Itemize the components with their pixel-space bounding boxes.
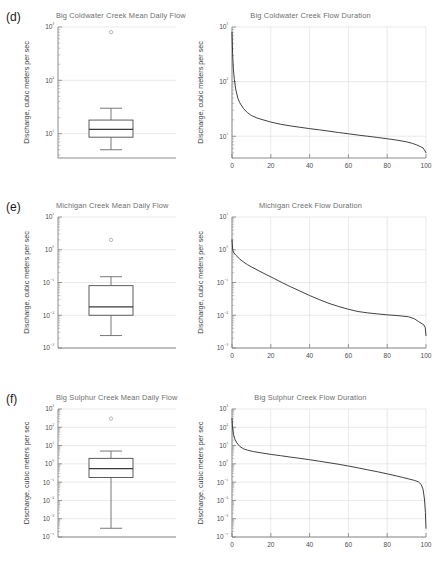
y-axis-label: Discharge, cubic meters per sec — [22, 421, 31, 524]
box-iqr — [89, 286, 133, 316]
y-axis-label: Discharge, cubic meters per sec — [196, 231, 205, 334]
x-tick-label: 100 — [420, 352, 431, 359]
y-tick-label: 10² — [219, 423, 228, 431]
x-tick-label: 20 — [267, 352, 275, 359]
y-tick-label: 10³ — [45, 404, 54, 412]
plot-background — [232, 27, 426, 158]
x-tick-label: 40 — [306, 352, 314, 359]
y-tick-label: 10⁻¹ — [43, 278, 55, 286]
y-tick-label: 10⁻² — [217, 496, 229, 504]
x-tick-label: 40 — [306, 162, 314, 169]
y-tick-label: 10⁻³ — [43, 514, 55, 522]
y-tick-label: 10⁻⁴ — [42, 532, 54, 540]
x-tick-label: 40 — [306, 541, 314, 548]
flowduration-canvas-e: 10¹10⁰10⁻¹10⁻²10⁻³020406080100Discharge,… — [186, 190, 435, 380]
y-tick-label: 10³ — [219, 404, 228, 412]
y-tick-label: 10¹ — [219, 441, 228, 449]
chart-title-duration-f: Big Sulphur Creek Flow Duration — [186, 393, 435, 402]
y-tick-label: 10⁻² — [217, 311, 229, 319]
chart-title-boxplot-e: Michigan Creek Mean Daily Flow — [56, 201, 169, 210]
y-tick-label: 10⁻³ — [217, 343, 229, 351]
y-axis-label: Discharge, cubic meters per sec — [22, 41, 31, 144]
flowduration-canvas-f: 10³10²10¹10⁰10⁻¹10⁻²10⁻³10⁻⁴020406080100… — [186, 382, 435, 569]
x-tick-label: 0 — [230, 541, 234, 548]
x-tick-label: 80 — [384, 352, 392, 359]
y-tick-label: 10⁻¹ — [217, 478, 229, 486]
y-axis-label: Discharge, cubic meters per sec — [196, 41, 205, 144]
x-tick-label: 80 — [384, 162, 392, 169]
y-tick-label: 10¹ — [45, 129, 54, 137]
x-tick-label: 100 — [420, 162, 431, 169]
y-axis-label: Discharge, cubic meters per sec — [22, 231, 31, 334]
y-tick-label: 10³ — [219, 22, 228, 30]
y-tick-label: 10⁻² — [43, 311, 55, 319]
flowduration-big-sulphur-creek: Big Sulphur Creek Flow Duration 10³10²10… — [186, 382, 435, 569]
y-tick-label: 10² — [45, 423, 54, 431]
y-tick-label: 10⁻¹ — [217, 278, 229, 286]
panel-row-e: (e) Michigan Creek Mean Daily Flow 10¹10… — [0, 190, 435, 380]
y-tick-label: 10⁻³ — [217, 514, 229, 522]
boxplot-canvas-d: 10³10²10¹Discharge, cubic meters per sec — [14, 0, 184, 190]
flowduration-canvas-d: 10³10²10¹020406080100Discharge, cubic me… — [186, 0, 435, 190]
y-tick-label: 10⁻³ — [43, 343, 55, 351]
panel-row-d: (d) Big Coldwater Creek Mean Daily Flow … — [0, 0, 435, 190]
y-tick-label: 10⁰ — [45, 459, 54, 467]
flowduration-michigan-creek: Michigan Creek Flow Duration 10¹10⁰10⁻¹1… — [186, 190, 435, 380]
x-tick-label: 20 — [267, 162, 275, 169]
y-tick-label: 10¹ — [45, 212, 54, 220]
boxplot-canvas-f: 10³10²10¹10⁰10⁻¹10⁻²10⁻³10⁻⁴Discharge, c… — [14, 382, 184, 569]
y-tick-label: 10³ — [45, 22, 54, 30]
chart-title-boxplot-d: Big Coldwater Creek Mean Daily Flow — [56, 11, 186, 20]
x-tick-label: 60 — [345, 541, 353, 548]
y-tick-label: 10⁻² — [43, 496, 55, 504]
artifact-speck — [157, 458, 159, 460]
x-tick-label: 0 — [230, 352, 234, 359]
y-tick-label: 10⁰ — [219, 459, 228, 467]
box-iqr — [89, 120, 133, 137]
plot-background — [232, 409, 426, 537]
y-tick-label: 10⁻⁴ — [216, 532, 228, 540]
x-tick-label: 20 — [267, 541, 275, 548]
y-tick-label: 10² — [219, 77, 228, 85]
boxplot-michigan-creek: Michigan Creek Mean Daily Flow 10¹10⁰10⁻… — [14, 190, 184, 380]
x-tick-label: 0 — [230, 162, 234, 169]
y-tick-label: 10⁻¹ — [43, 478, 55, 486]
chart-title-duration-e: Michigan Creek Flow Duration — [186, 201, 435, 210]
y-tick-label: 10¹ — [219, 132, 228, 140]
boxplot-big-sulphur-creek: Big Sulphur Creek Mean Daily Flow 10³10²… — [14, 382, 184, 569]
y-tick-label: 10⁰ — [219, 245, 228, 253]
x-tick-label: 80 — [384, 541, 392, 548]
y-tick-label: 10² — [45, 76, 54, 84]
x-tick-label: 100 — [420, 541, 431, 548]
y-tick-label: 10¹ — [45, 441, 54, 449]
boxplot-big-coldwater-creek: Big Coldwater Creek Mean Daily Flow 10³1… — [14, 0, 184, 190]
x-tick-label: 60 — [345, 162, 353, 169]
x-tick-label: 60 — [345, 352, 353, 359]
y-axis-label: Discharge, cubic meters per sec — [196, 421, 205, 524]
plot-background — [58, 27, 176, 158]
flowduration-big-coldwater-creek: Big Coldwater Creek Flow Duration 10³10²… — [186, 0, 435, 190]
figure-flow-statistics: (d) Big Coldwater Creek Mean Daily Flow … — [0, 0, 435, 569]
y-tick-label: 10¹ — [219, 212, 228, 220]
chart-title-duration-d: Big Coldwater Creek Flow Duration — [186, 11, 435, 20]
boxplot-canvas-e: 10¹10⁰10⁻¹10⁻²10⁻³Discharge, cubic meter… — [14, 190, 184, 380]
panel-row-f: (f) Big Sulphur Creek Mean Daily Flow 10… — [0, 382, 435, 569]
box-iqr — [89, 458, 133, 477]
chart-title-boxplot-f: Big Sulphur Creek Mean Daily Flow — [56, 393, 178, 402]
y-tick-label: 10⁰ — [45, 245, 54, 253]
